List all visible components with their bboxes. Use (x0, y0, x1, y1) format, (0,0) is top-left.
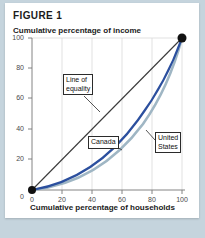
y-tick-label-40: 40 (8, 125, 24, 132)
callout-line-of-equality-line2: equality (66, 85, 90, 94)
y-tick-label-60: 60 (8, 94, 24, 101)
callout-canada: Canada (88, 136, 119, 149)
y-axis (28, 38, 32, 190)
callout-line-of-equality-line1: Line of (66, 76, 90, 85)
x-tick-label-20: 20 (54, 196, 70, 203)
x-tick-label-60: 60 (114, 196, 130, 203)
callout-united-states-line1: United (158, 134, 178, 143)
x-tick-label-0: 0 (24, 196, 40, 203)
x-tick-label-40: 40 (84, 196, 100, 203)
y-tick-label-0: 0 (8, 193, 24, 200)
y-tick-label-80: 80 (8, 64, 24, 71)
y-tick-label-20: 20 (8, 155, 24, 162)
line-of-equality-series (32, 38, 182, 190)
x-axis-title: Cumulative percentage of households (30, 203, 175, 212)
callout-canada-label: Canada (91, 138, 116, 147)
x-axis (32, 190, 185, 194)
origin-endpoint-dot (28, 186, 36, 194)
callout-united-states: United States (155, 132, 181, 153)
figure-container: FIGURE 1 Cumulative percentage of income (0, 0, 205, 238)
callout-united-states-line2: States (158, 143, 178, 152)
max-endpoint-dot (178, 34, 187, 43)
x-tick-label-100: 100 (174, 196, 190, 203)
y-tick-label-100: 100 (8, 34, 24, 41)
x-tick-label-80: 80 (144, 196, 160, 203)
callout-line-of-equality: Line of equality (63, 74, 93, 95)
